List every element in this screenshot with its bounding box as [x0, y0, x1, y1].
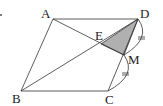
geometry-diagram: A D E M B C: [0, 0, 163, 106]
label-M: M: [128, 52, 140, 67]
label-B: B: [12, 91, 21, 106]
stray-dot: [0, 14, 2, 16]
label-E: E: [95, 28, 103, 43]
label-C: C: [105, 92, 114, 106]
label-D: D: [140, 6, 149, 21]
segment-AB: [21, 19, 53, 91]
segment-BD: [21, 19, 138, 91]
shaded-triangle-EDM: [101, 19, 138, 55]
label-A: A: [41, 6, 51, 21]
